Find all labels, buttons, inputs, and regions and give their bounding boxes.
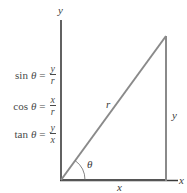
cos-function-name: cos <box>13 100 28 112</box>
cos-formula: cos θ = x r <box>13 95 56 116</box>
opposite-side-label: y <box>172 110 177 121</box>
tan-theta: θ <box>31 128 36 140</box>
y-axis-label: y <box>58 5 63 16</box>
tan-function-name: tan <box>14 128 27 140</box>
x-axis-label: x <box>179 175 184 186</box>
tan-equals: = <box>39 128 45 140</box>
tan-formula: tan θ = y x <box>14 123 56 144</box>
sin-function-name: sin <box>15 69 28 81</box>
cos-theta: θ <box>31 100 36 112</box>
angle-theta-label: θ <box>87 159 92 170</box>
sin-theta: θ <box>31 69 36 81</box>
triangle-hypotenuse <box>61 36 166 180</box>
cos-fraction: x r <box>50 95 56 116</box>
sin-equals: = <box>39 69 45 81</box>
adjacent-side-label: x <box>117 182 122 193</box>
cos-denominator: r <box>51 106 55 116</box>
sin-fraction: y r <box>50 64 56 85</box>
cos-equals: = <box>39 100 45 112</box>
tan-fraction: y x <box>50 123 56 144</box>
angle-arc <box>75 161 85 180</box>
sin-denominator: r <box>51 75 55 85</box>
hypotenuse-label: r <box>106 99 110 110</box>
cos-numerator: x <box>50 95 56 106</box>
sin-formula: sin θ = y r <box>15 64 56 85</box>
sin-numerator: y <box>50 64 56 75</box>
tan-denominator: x <box>51 134 55 144</box>
tan-numerator: y <box>50 123 56 134</box>
